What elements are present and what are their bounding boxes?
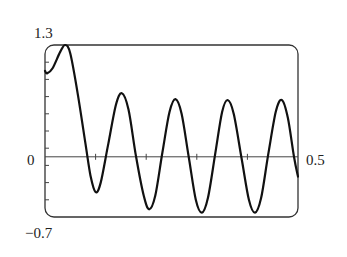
x-max-label: 0.5 [306,152,325,168]
data-series-line [45,45,298,213]
y-max-label: 1.3 [34,25,53,41]
y-min-label: −0.7 [25,225,53,241]
origin-label: 0 [27,152,35,168]
line-chart: 1.3 0 −0.7 0.5 [0,0,347,257]
